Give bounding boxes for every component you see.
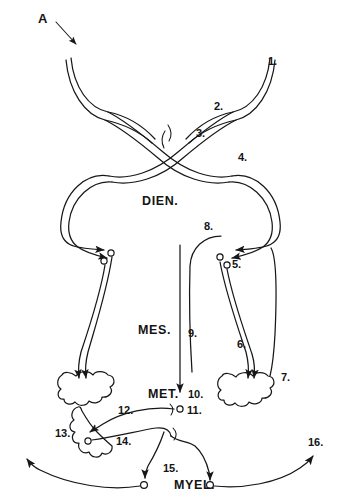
left-fibre-medial: [78, 265, 105, 378]
region-label-group: DIEN. MES. MET. MYEL.: [138, 194, 215, 492]
right-pathway-outer: [232, 175, 280, 250]
region-label-myel: MYEL.: [174, 478, 215, 492]
left-pathway-outer: [61, 175, 109, 250]
reference-number-10: 10.: [188, 388, 203, 400]
panel-pointer-arrow: [56, 22, 76, 44]
left-mesencephalon-fibres: [78, 257, 112, 378]
reference-number-8: 8.: [204, 220, 213, 232]
region-label-met: MET.: [148, 387, 179, 401]
fibre-fourteen-branch-left: [145, 432, 164, 478]
fibre-fourteen-trunk: [92, 428, 171, 440]
right-tract-decussating-inner: [112, 120, 236, 183]
fibre-tick-eleven: [170, 404, 173, 415]
optic-nerve-group: [66, 58, 275, 183]
right-fibre-medial: [227, 269, 255, 378]
reference-number-9: 9.: [188, 327, 197, 339]
right-fibre-lateral: [220, 262, 249, 378]
synapse-circle-right-lateral: [217, 254, 223, 260]
synapse-circle-left-lateral: [108, 250, 114, 256]
long-tract-leftward: [27, 459, 140, 488]
synapse-circle-left-medial: [101, 258, 107, 264]
reference-number-16: 16.: [308, 436, 323, 448]
reference-number-13: 13.: [55, 427, 70, 439]
synapse-circle-fourteen-origin: [85, 438, 91, 444]
reference-number-group: 1. 2. 3. 4. 5. 6. 7. 8. 9. 10. 11. 12. 1…: [55, 55, 323, 474]
reference-number-14: 14.: [116, 435, 131, 447]
nucleus-blob-group: [58, 372, 274, 457]
figure-root: A: [0, 0, 340, 502]
panel-letter-group: A: [38, 11, 76, 44]
reference-number-5: 5.: [232, 258, 241, 270]
left-fibre-lateral: [85, 257, 112, 378]
pathway-diagram: A: [0, 0, 340, 502]
arc-loop-eight: [190, 236, 221, 372]
reference-number-1: 1.: [268, 55, 277, 67]
nucleus-blob-right: [218, 373, 274, 407]
reference-number-6: 6.: [237, 338, 246, 350]
chiasm-tick-upper: [168, 125, 171, 141]
reference-number-15: 15.: [163, 462, 178, 474]
reference-number-11: 11.: [187, 404, 202, 416]
reference-number-7: 7.: [281, 371, 290, 383]
diencephalon-synapse-group: [101, 250, 230, 268]
panel-letter-a: A: [38, 11, 48, 26]
left-optic-nerve-outer: [66, 60, 152, 143]
region-label-mes: MES.: [138, 323, 171, 337]
reference-number-4: 4.: [238, 151, 247, 163]
right-descending-pathway-group: [229, 175, 280, 258]
left-descending-pathway-group: [61, 175, 112, 258]
region-label-dien: DIEN.: [142, 194, 178, 208]
synapse-circle-fifteen: [141, 482, 148, 489]
left-tract-decussating-inner: [105, 120, 229, 183]
right-outer-vertical-seven: [270, 248, 276, 376]
left-optic-nerve-inner: [71, 58, 155, 139]
chiasm-tick-lower: [162, 131, 165, 148]
long-tract-rightward-sixteen: [214, 456, 313, 487]
synapse-circle-right-medial: [224, 262, 230, 268]
reference-number-2: 2.: [214, 100, 223, 112]
reference-number-12: 12.: [118, 404, 133, 416]
reference-number-3: 3.: [196, 127, 205, 139]
synapse-circle-eleven: [177, 406, 183, 412]
